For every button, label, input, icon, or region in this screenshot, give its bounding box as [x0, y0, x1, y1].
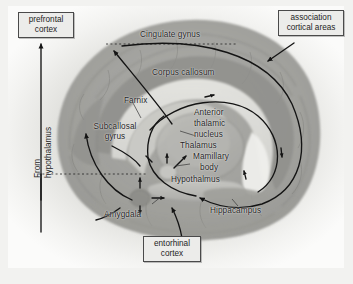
callout-prefrontal-cortex[interactable]: prefrontal cortex	[18, 12, 74, 38]
label-hypothalamus: Hypothalmus	[171, 175, 220, 185]
label-cingulate-gyrus: Cingulate gynus	[140, 30, 200, 40]
label-hippocampus: Hippacampus	[210, 206, 261, 216]
callout-entorhinal-cortex[interactable]: entorhinal cortex	[143, 236, 201, 262]
callout-association-cortical-areas[interactable]: association cortical areas	[278, 10, 344, 36]
callout-association-line1: association	[283, 13, 339, 23]
label-subcallosal-gyrus-line1: Subcallosal	[84, 122, 146, 132]
label-corpus-callosum: Corpus callosum	[152, 68, 214, 78]
callout-entorhinal-line2: cortex	[148, 249, 196, 259]
label-thalamus: Thalamus	[180, 141, 217, 151]
limbic-system-figure: Cingulate gynus Corpus callosum Farnix S…	[0, 0, 353, 284]
callout-association-line2: cortical areas	[283, 23, 339, 33]
label-anterior-thalamic-nucleus-line1: Anterior	[194, 108, 223, 118]
amygdala-nucleus	[130, 190, 150, 207]
label-from-hypothalamus-line2: hypothalamus	[44, 127, 53, 178]
label-mamillary-body-line2: body	[200, 163, 218, 173]
label-subcallosal-gyrus-line2: gyrus	[84, 132, 146, 142]
label-anterior-thalamic-nucleus-line3: nucleus	[194, 130, 223, 140]
label-anterior-thalamic-nucleus-line2: thalamic	[194, 119, 225, 129]
callout-entorhinal-line1: entorhinal	[148, 239, 196, 249]
callout-prefrontal-cortex-line1: prefrontal	[23, 15, 69, 25]
label-mamillary-body-line1: Mamillary	[193, 152, 229, 162]
callout-prefrontal-cortex-line2: cortex	[23, 25, 69, 35]
label-fornix: Farnix	[124, 96, 147, 106]
label-amygdala: Amygdala	[104, 210, 141, 220]
label-from-hypothalamus-line1: From	[33, 159, 42, 178]
